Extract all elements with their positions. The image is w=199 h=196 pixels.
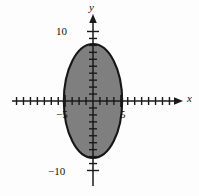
x-axis-arrowhead — [174, 97, 183, 105]
y-axis-tick-label-10: 10 — [56, 26, 67, 37]
plot-canvas — [0, 0, 199, 196]
x-axis-tick-label-5: 5 — [120, 109, 126, 120]
y-axis-tick-label-negative-10: −10 — [48, 166, 65, 177]
x-axis-tick-label-negative-5: −5 — [56, 109, 68, 120]
y-axis-arrowhead — [89, 14, 97, 23]
x-axis-label: x — [187, 93, 192, 104]
coordinate-plane-figure: 10 −10 −5 5 y x — [0, 0, 199, 196]
y-axis-label: y — [89, 2, 94, 13]
